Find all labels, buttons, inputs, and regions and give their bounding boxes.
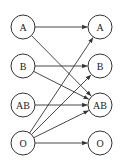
node-label: B [97,61,104,72]
left-node-ab: AB [11,93,35,117]
right-node-o: O [88,131,112,155]
node-label: O [19,138,26,149]
left-node-b: B [11,54,35,78]
right-column-nodes: ABABO [88,15,112,155]
right-node-a: A [88,15,112,39]
compatibility-diagram: ABABO ABABO [0,0,121,166]
edge-o-to-a-arrow [30,37,93,133]
node-label: O [96,138,103,149]
node-label: AB [16,100,30,111]
edges [30,27,93,143]
right-node-ab: AB [88,93,112,117]
node-label: AB [93,100,107,111]
node-label: A [96,22,104,33]
left-column-nodes: ABABO [11,15,35,155]
node-label: B [20,61,27,72]
left-node-a: A [11,15,35,39]
left-node-o: O [11,131,35,155]
right-node-b: B [88,54,112,78]
node-label: A [19,22,27,33]
